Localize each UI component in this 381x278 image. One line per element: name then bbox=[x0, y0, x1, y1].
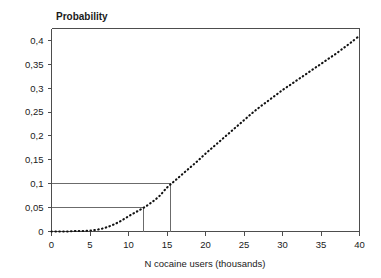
y-tick-label-7: 0,35 bbox=[25, 59, 44, 70]
chart-background bbox=[0, 0, 381, 278]
x-tick-label-7: 35 bbox=[316, 239, 327, 250]
x-tick-label-1: 5 bbox=[87, 239, 92, 250]
x-tick-label-2: 10 bbox=[123, 239, 134, 250]
probability-chart-figure: 00,050,10,150,20,250,30,350,4 0510152025… bbox=[0, 0, 381, 278]
y-tick-label-2: 0,1 bbox=[30, 178, 43, 189]
y-tick-label-4: 0,2 bbox=[30, 130, 43, 141]
x-tick-label-8: 40 bbox=[354, 239, 365, 250]
y-tick-label-3: 0,15 bbox=[25, 154, 44, 165]
y-tick-label-5: 0,25 bbox=[25, 106, 44, 117]
page-title: Probability bbox=[56, 11, 108, 22]
x-tick-label-4: 20 bbox=[200, 239, 211, 250]
chart-canvas: 00,050,10,150,20,250,30,350,4 0510152025… bbox=[0, 0, 381, 278]
y-tick-label-8: 0,4 bbox=[30, 35, 43, 46]
x-tick-label-3: 15 bbox=[162, 239, 173, 250]
x-axis-title: N cocaine users (thousands) bbox=[145, 258, 266, 269]
x-tick-label-5: 25 bbox=[239, 239, 250, 250]
x-tick-label-6: 30 bbox=[277, 239, 288, 250]
y-tick-label-0: 0 bbox=[38, 226, 43, 237]
y-tick-label-1: 0,05 bbox=[25, 202, 44, 213]
y-tick-label-6: 0,3 bbox=[30, 83, 43, 94]
x-tick-label-0: 0 bbox=[49, 239, 54, 250]
